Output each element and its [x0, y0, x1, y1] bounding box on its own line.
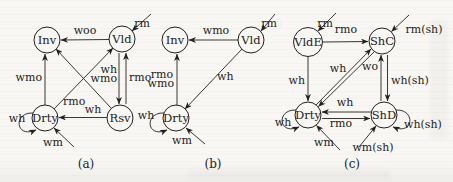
edge-label-wmo: wmo — [91, 72, 118, 85]
state-label-VldE: VldE — [293, 35, 322, 49]
state-label-ShC: ShC — [370, 34, 394, 48]
edge-label-wh(sh): wh(sh) — [404, 118, 442, 131]
diagram-b: wmormrmowmowhwhwmInvVldDrty(b) — [138, 14, 278, 171]
state-label-Drty: Drty — [295, 108, 321, 122]
state-label-Vld: Vld — [240, 33, 261, 47]
edge-label-rmo: rmo — [335, 23, 358, 36]
diagram-c: rmrmorm(sh)whwhwowh(sh)whrmowhwmwh(sh)wm… — [275, 13, 443, 171]
edge-label-rm(sh): rm(sh) — [405, 23, 442, 36]
state-diagrams: woormwmowhwmormormowhwhwmInvVldDrtyRsv(a… — [0, 0, 453, 182]
edge-label-wh: wh — [138, 109, 155, 122]
state-label-Inv: Inv — [166, 33, 185, 47]
state-label-Rsv: Rsv — [109, 111, 131, 125]
edge-label-rmo: rmo — [330, 117, 353, 130]
edge-label-wh: wh — [85, 103, 102, 116]
edge-label-rm: rm — [317, 17, 333, 30]
state-label-Vld: Vld — [111, 32, 132, 46]
edge-label-wh: wh — [330, 62, 347, 75]
caption-a: (a) — [78, 157, 95, 171]
edge-label-wm: wm — [43, 136, 63, 149]
edge-label-rm: rm — [134, 17, 150, 30]
caption-b: (b) — [204, 157, 221, 171]
edge-label-wh: wh — [217, 70, 234, 83]
state-label-Drty: Drty — [163, 111, 189, 125]
diagram-a: woormwmowhwmormormowhwhwmInvVldDrtyRsv(a… — [9, 14, 152, 171]
edge-label-wmo: wmo — [16, 71, 43, 84]
edge-c-VldE-ShC — [323, 42, 368, 43]
edge-label-wm: wm — [314, 136, 334, 149]
state-label-Inv: Inv — [38, 33, 57, 47]
edge-label-woo: woo — [74, 24, 97, 37]
edge-label-wmo: wmo — [148, 77, 175, 90]
edge-label-wm(sh): wm(sh) — [352, 141, 393, 154]
edge-label-wh: wh — [289, 74, 306, 87]
edge-a-Vld-Inv — [61, 40, 109, 41]
state-label-Drty: Drty — [32, 111, 58, 125]
edge-label-rmo: rmo — [63, 95, 86, 108]
edge-label-wh: wh — [9, 112, 26, 125]
caption-c: (c) — [344, 157, 360, 171]
edge-label-wm: wm — [172, 134, 192, 147]
edge-label-wh(sh): wh(sh) — [391, 74, 429, 87]
edge-label-wh: wh — [337, 96, 354, 109]
edge-label-rm: rm — [261, 17, 277, 30]
edge-label-wh: wh — [275, 116, 292, 129]
edge-label-wo: wo — [362, 60, 378, 73]
state-label-ShD: ShD — [372, 108, 397, 122]
edge-label-wmo: wmo — [203, 24, 230, 37]
